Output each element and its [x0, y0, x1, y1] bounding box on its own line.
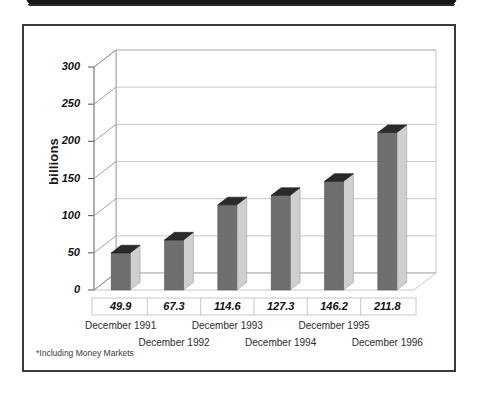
chart-figure-frame: billions 050100150200250300 49.967.3114.…	[22, 24, 456, 372]
bar-front-face	[218, 205, 237, 290]
bar-value-label: 211.8	[361, 298, 414, 315]
y-axis-tick-label: 250	[46, 97, 80, 109]
y-axis-tick-label: 50	[46, 246, 80, 258]
chart-footnote: *Including Money Markets	[36, 348, 134, 358]
y-axis-tick-label: 0	[46, 283, 80, 295]
bar-column	[218, 197, 247, 290]
bar-front-face	[325, 181, 344, 290]
bar-front-face	[271, 195, 290, 290]
bar-side-face	[290, 188, 300, 290]
bar-column	[111, 245, 140, 290]
x-axis-category-label: December 1995	[296, 320, 372, 331]
page-header-bar	[26, 0, 457, 6]
y-axis-tick-label: 200	[46, 134, 80, 146]
bar-side-face	[344, 174, 354, 290]
bar-side-face	[397, 125, 407, 290]
bar-value-label: 146.2	[307, 298, 360, 315]
x-axis-category-label: December 1991	[83, 320, 159, 331]
bar-value-label: 114.6	[201, 298, 254, 315]
y-axis-title: billions	[46, 117, 61, 207]
bar-front-face	[165, 240, 184, 290]
bar-column	[325, 174, 354, 290]
bar-side-face	[184, 232, 194, 290]
x-axis-category-label: December 1993	[189, 320, 265, 331]
y-axis-tick-label: 300	[46, 60, 80, 72]
bar-front-face	[378, 133, 397, 290]
x-axis-category-label: December 1992	[136, 337, 212, 348]
bar-column	[378, 125, 407, 290]
x-axis-category-label: December 1996	[349, 337, 425, 348]
bar-side-face	[237, 197, 247, 290]
bar-value-label: 67.3	[147, 298, 200, 315]
x-axis-category-label: December 1994	[243, 337, 319, 348]
bar-column	[271, 188, 300, 290]
y-axis-tick-label: 100	[46, 209, 80, 221]
y-axis-tick-label: 150	[46, 172, 80, 184]
bar-front-face	[111, 253, 130, 290]
bar-value-label: 127.3	[254, 298, 307, 315]
bar-value-label: 49.9	[94, 298, 147, 315]
bar-column	[165, 232, 194, 290]
